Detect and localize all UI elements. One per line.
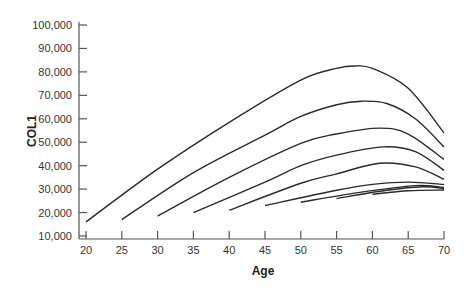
y-tick-label: 30,000 <box>38 183 72 195</box>
x-tick-label: 60 <box>366 244 378 256</box>
series-line-start-35 <box>193 147 444 213</box>
y-tick-label: 60,000 <box>38 113 72 125</box>
x-tick-label: 65 <box>402 244 414 256</box>
line-chart: 10,00020,00030,00040,00050,00060,00070,0… <box>0 0 473 290</box>
series-line-start-20 <box>86 66 444 222</box>
x-axis-title: Age <box>252 264 275 278</box>
x-tick-label: 50 <box>295 244 307 256</box>
x-tick-label: 30 <box>151 244 163 256</box>
y-tick-label: 100,000 <box>32 19 72 31</box>
y-tick-label: 10,000 <box>38 230 72 242</box>
series-line-start-30 <box>158 128 444 216</box>
y-tick-label: 80,000 <box>38 66 72 78</box>
y-tick-label: 90,000 <box>38 42 72 54</box>
y-tick-label: 50,000 <box>38 136 72 148</box>
x-tick-label: 35 <box>187 244 199 256</box>
y-axis-title: COL1 <box>25 115 39 147</box>
y-tick-label: 40,000 <box>38 160 72 172</box>
x-tick-label: 45 <box>259 244 271 256</box>
series-line-start-40 <box>229 163 444 210</box>
x-tick-label: 70 <box>438 244 450 256</box>
x-tick-label: 25 <box>116 244 128 256</box>
x-tick-label: 40 <box>223 244 235 256</box>
series-group <box>86 66 444 222</box>
y-tick-label: 70,000 <box>38 89 72 101</box>
x-ticks: 2025303540455055606570 <box>80 231 450 256</box>
x-tick-label: 55 <box>330 244 342 256</box>
y-tick-label: 20,000 <box>38 207 72 219</box>
x-tick-label: 20 <box>80 244 92 256</box>
axes <box>79 22 444 239</box>
